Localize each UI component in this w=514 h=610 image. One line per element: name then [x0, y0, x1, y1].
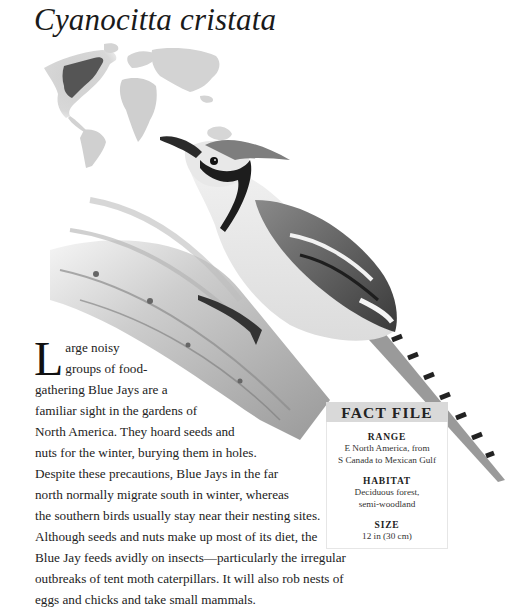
fact-label: RANGE [327, 431, 447, 443]
fact-file-header: FACT FILE [326, 402, 448, 422]
article-line: familiar sight in the gardens of [35, 400, 345, 421]
fact-file-panel: FACT FILE RANGE E North America, from S … [326, 402, 448, 549]
bird-beak [160, 136, 202, 158]
species-title: Cyanocitta cristata [34, 2, 276, 38]
fact-label: SIZE [327, 519, 447, 531]
fact-value: E North America, from [327, 443, 447, 455]
article-body: L arge noisy groups of food- gathering B… [35, 337, 345, 610]
fact-label: HABITAT [327, 475, 447, 487]
fact-value: 12 in (30 cm) [327, 531, 447, 543]
article-line: Blue Jay feeds avidly on insects—particu… [35, 547, 345, 568]
article-line: gathering Blue Jays are a [35, 379, 345, 400]
article-line: nuts for the winter, burying them in hol… [35, 442, 345, 463]
fact-range: RANGE E North America, from S Canada to … [327, 431, 447, 466]
fact-habitat: HABITAT Deciduous forest, semi-woodland [327, 475, 447, 510]
article-line: eggs and chicks and take small mammals. [35, 589, 345, 610]
article-line: outbreaks of tent moth caterpillars. It … [35, 568, 345, 589]
bird-eye [210, 157, 218, 165]
fact-value: semi-woodland [327, 499, 447, 511]
drop-cap: L [34, 340, 63, 378]
fact-size: SIZE 12 in (30 cm) [327, 519, 447, 543]
article-line: North America. They hoard seeds and [35, 421, 345, 442]
article-line: groups of food- [35, 358, 345, 379]
article-line: Although seeds and nuts make up most of … [35, 526, 345, 547]
fact-value: Deciduous forest, [327, 487, 447, 499]
article-line: arge noisy [35, 337, 345, 358]
article-line: Despite these precautions, Blue Jays in … [35, 463, 345, 484]
article-line: north normally migrate south in winter, … [35, 484, 345, 505]
fact-value: S Canada to Mexican Gulf [327, 455, 447, 467]
article-line: the southern birds usually stay near the… [35, 505, 345, 526]
